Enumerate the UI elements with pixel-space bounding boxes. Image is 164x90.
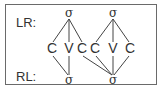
top-syllable-node-1: σ bbox=[65, 6, 73, 20]
bottom-syllable-node-2: σ bbox=[109, 73, 117, 87]
lr-edges bbox=[53, 19, 129, 42]
segment-v1: V bbox=[64, 40, 74, 56]
top-syllable-node-2: σ bbox=[109, 6, 117, 20]
segment-c2: C bbox=[77, 40, 87, 56]
segment-c3: C bbox=[90, 40, 100, 56]
rl-label: RL: bbox=[16, 69, 36, 84]
syllable-structure-diagram: LR: RL: σ σ C V C C V C σ σ bbox=[0, 0, 164, 90]
bottom-syllable-node-1: σ bbox=[65, 73, 73, 87]
segment-v2: V bbox=[108, 40, 118, 56]
segment-c1: C bbox=[47, 40, 57, 56]
segment-c4: C bbox=[125, 40, 135, 56]
lr-label: LR: bbox=[16, 15, 36, 30]
